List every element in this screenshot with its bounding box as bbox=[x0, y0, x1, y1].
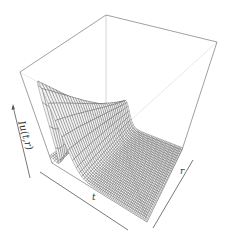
surface-plot: Iu(t,r) t r bbox=[0, 0, 225, 236]
x-axis-label: t bbox=[92, 192, 96, 202]
z-axis-label: Iu(t,r) bbox=[16, 118, 36, 151]
arrow-head-icon bbox=[12, 104, 15, 110]
y-axis-label: r bbox=[180, 166, 185, 176]
surface-plot-canvas: Iu(t,r) t r bbox=[0, 0, 225, 236]
